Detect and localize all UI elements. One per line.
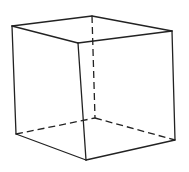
visible-edge-AB xyxy=(12,16,92,26)
visible-edge-AE xyxy=(12,26,16,134)
cube-diagram xyxy=(0,0,189,172)
visible-edge-EH xyxy=(16,134,86,160)
hidden-edge-BF xyxy=(92,16,95,118)
visible-edge-DA xyxy=(12,26,78,43)
hidden-edge-FG xyxy=(95,118,175,140)
visible-edge-CG xyxy=(172,31,175,140)
visible-edge-BC xyxy=(92,16,172,31)
visible-edge-HG xyxy=(86,140,175,160)
visible-edge-DH xyxy=(78,43,86,160)
cube-edges xyxy=(12,16,175,160)
